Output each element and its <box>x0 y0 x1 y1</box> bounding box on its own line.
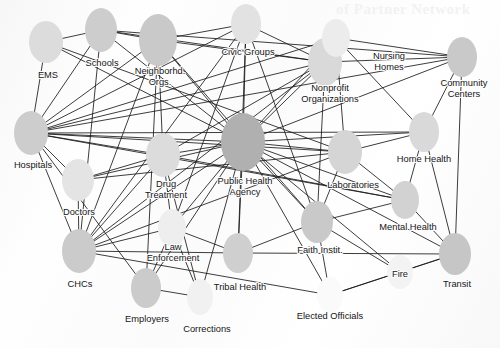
node-label-faith: Faith Instit. <box>297 245 342 255</box>
node-label-line: Orgs. <box>149 77 172 87</box>
node-label-line: Transit <box>443 279 471 289</box>
node-employers[interactable] <box>131 268 161 308</box>
node-label-community: CommunityCenters <box>440 78 487 99</box>
node-nursing[interactable] <box>322 19 350 57</box>
node-label-line: Drug <box>156 179 176 189</box>
node-label-line: EMS <box>38 70 58 80</box>
node-drug[interactable] <box>146 133 180 177</box>
edge-hospitals-laboratories <box>31 133 345 152</box>
node-label-publichealth: Public HealthAgency <box>218 176 273 197</box>
node-ems[interactable] <box>29 21 63 63</box>
node-label-line: Elected Officials <box>297 311 364 321</box>
node-label-line: Enforcement <box>147 253 200 263</box>
node-label-ems: EMS <box>38 70 58 80</box>
node-label-line: Laboratories <box>327 180 379 190</box>
node-label-line: CHCs <box>68 279 93 289</box>
node-transit[interactable] <box>439 233 471 275</box>
node-label-line: Nursing <box>373 51 405 61</box>
node-label-nonprofit: NonprofitOrganizations <box>301 83 359 104</box>
node-label-civic: Civic Groups <box>221 47 275 57</box>
node-community[interactable] <box>447 37 477 77</box>
node-doctors[interactable] <box>62 159 94 201</box>
node-label-line: Faith Instit. <box>297 245 342 255</box>
node-label-line: Neighborhd. <box>135 66 186 76</box>
node-label-doctors: Doctors <box>63 207 95 217</box>
node-mentalhealth[interactable] <box>391 181 419 219</box>
node-label-schools: Schools <box>85 58 118 68</box>
node-label-line: Treatment <box>145 190 187 200</box>
node-label-line: Centers <box>448 89 481 99</box>
node-faith[interactable] <box>301 201 333 243</box>
node-label-transit: Transit <box>443 279 471 289</box>
node-label-line: Civic Groups <box>221 47 275 57</box>
node-label-line: Organizations <box>301 94 359 104</box>
node-chcs[interactable] <box>62 229 96 273</box>
node-label-mentalhealth: Mental Health <box>379 222 436 232</box>
edge-tribal-transit <box>238 253 455 254</box>
node-label-line: Public Health <box>218 176 273 186</box>
node-label-line: Doctors <box>63 207 95 217</box>
edge-hospitals-publichealth <box>31 133 243 142</box>
node-label-nursing: NursingHomes <box>373 51 405 72</box>
node-schools[interactable] <box>85 8 117 52</box>
node-label-law: LawEnforcement <box>147 242 200 263</box>
edge-nursing-hospitals <box>31 38 336 133</box>
node-corrections[interactable] <box>187 279 213 315</box>
edge-civic-hospitals <box>31 24 246 133</box>
node-elected[interactable] <box>317 277 343 313</box>
node-label-line: Agency <box>229 187 260 197</box>
node-label-fire: Fire <box>392 269 408 279</box>
node-label-laboratories: Laboratories <box>327 180 379 190</box>
node-label-line: Community <box>440 78 487 88</box>
node-hospitals[interactable] <box>14 111 48 155</box>
node-label-corrections: Corrections <box>183 324 231 334</box>
node-label-line: Tribal Health <box>214 282 266 292</box>
network-graph-svg: EMSSchoolsNeighborhd.Orgs.Civic GroupsNo… <box>0 0 500 348</box>
node-label-line: Schools <box>85 58 118 68</box>
node-label-tribal: Tribal Health <box>214 282 266 292</box>
node-homehealth[interactable] <box>409 112 439 152</box>
node-label-line: Employers <box>125 314 169 324</box>
node-label-hospitals: Hospitals <box>14 160 53 170</box>
node-label-line: Homes <box>374 62 404 72</box>
node-label-homehealth: Home Health <box>397 154 451 164</box>
node-label-line: Fire <box>392 269 408 279</box>
edge-laboratories-chcs <box>79 152 345 251</box>
node-label-line: Corrections <box>183 324 231 334</box>
node-label-elected: Elected Officials <box>297 311 364 321</box>
node-publichealth[interactable] <box>221 113 265 171</box>
edge-doctors-laboratories <box>78 152 345 180</box>
node-label-line: Law <box>164 242 181 252</box>
edge-drug-mentalhealth <box>163 155 405 200</box>
node-label-line: Hospitals <box>14 160 53 170</box>
node-label-chcs: CHCs <box>68 279 93 289</box>
node-civic[interactable] <box>231 4 261 44</box>
network-diagram-canvas: of Partner Network EMSSchoolsNeighborhd.… <box>0 0 500 348</box>
node-tribal[interactable] <box>223 233 253 273</box>
node-label-employers: Employers <box>125 314 169 324</box>
node-label-line: Mental Health <box>379 222 436 232</box>
node-neighborhood[interactable] <box>139 14 177 66</box>
node-label-line: Nonprofit <box>311 83 349 93</box>
node-laboratories[interactable] <box>328 130 362 174</box>
node-label-line: Home Health <box>397 154 451 164</box>
